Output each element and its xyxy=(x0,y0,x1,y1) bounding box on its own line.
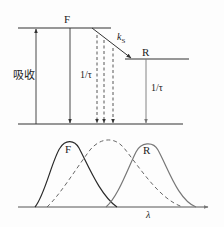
label-R-level: R xyxy=(142,47,149,58)
label-curve-F: F xyxy=(65,144,71,155)
label-absorption: 吸收 xyxy=(13,70,35,81)
curve-R xyxy=(106,144,196,207)
energy-level-diagram: F R 吸收 kS 1/τ 1/τ F R λ xyxy=(0,0,224,227)
label-lifetime-left: 1/τ xyxy=(80,70,92,80)
label-s-subscript: S xyxy=(121,37,125,45)
label-curve-R: R xyxy=(143,145,150,156)
curve-F xyxy=(35,142,117,207)
label-F-level: F xyxy=(64,14,70,25)
label-wavelength: λ xyxy=(146,210,150,220)
label-lifetime-right: 1/τ xyxy=(151,83,163,93)
label-ks: kS xyxy=(117,32,125,45)
diagram-graphics xyxy=(0,0,224,227)
